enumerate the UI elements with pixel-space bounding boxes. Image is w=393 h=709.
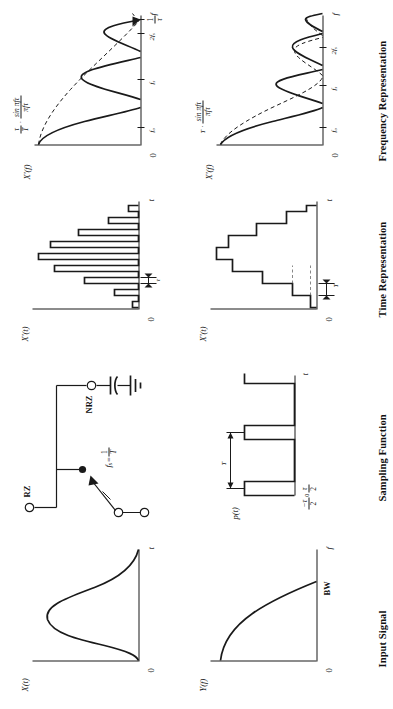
rz-pulse-width-label: τ (154, 278, 161, 281)
sampling-rate-num: 1 (100, 447, 108, 455)
nrz-tick-2fs: 2fs (330, 47, 338, 54)
input-time-x-axis-label: t (146, 547, 155, 549)
pulse-left-edge-num: −τ (300, 497, 308, 509)
nrz-envelope-sinc-fraction: sin πfτ πfτ (194, 100, 211, 123)
rz-envelope-dot: · (17, 120, 24, 122)
nrz-envelope-label: T · sin πfτ πfτ (194, 100, 211, 133)
column-title-sampling-function: Sampling Function (376, 414, 387, 501)
sampling-pulse-train-plot: p(t) t T −τ 2 0 τ 2 (208, 361, 348, 521)
pulse-train-waveform (226, 373, 296, 495)
sampling-rate-label: fs = 1 T (100, 447, 117, 467)
nrz-envelope-prefix: T (199, 129, 206, 133)
rz-time-plot: X'(t) 0 t τ (18, 191, 168, 341)
nrz-time-plot: X'(t) 0 t T (196, 191, 346, 341)
pulse-edge-labels: −τ 2 0 τ 2 (300, 485, 317, 510)
rz-freq-x-label: f (148, 13, 157, 15)
rz-envelope-den: πfτ (20, 95, 29, 118)
sampling-rate-fraction: 1 T (100, 447, 117, 455)
input-time-curve (32, 547, 140, 661)
pulse-train-y-label: p(t) (230, 507, 239, 519)
input-spectrum-y-axis-label: Y(f) (198, 678, 207, 691)
figure-canvas: X(t) 0 t Y(f) 0 f BW Input Signal (0, 0, 393, 709)
column-title-time-representation: Time Representation (376, 221, 387, 317)
input-spectrum-curve (210, 547, 318, 661)
input-terminal-circle (140, 508, 148, 516)
nrz-time-origin-label: 0 (324, 317, 333, 321)
rz-tick-fs: fs (148, 80, 156, 84)
pulse-train-x-label: t (300, 373, 309, 375)
rz-time-origin-label: 0 (146, 317, 155, 321)
input-time-y-axis-label: X(t) (20, 678, 29, 691)
pulse-left-edge-den: 2 (308, 497, 317, 509)
column-title-frequency-representation: Frequency Representation (376, 40, 387, 161)
pulse-right-edge-fraction: τ 2 (300, 485, 317, 493)
rz-envelope-num: sin πfτ (12, 95, 20, 118)
input-spectrum-x-axis-label: f (324, 547, 333, 549)
nrz-freq-y-label: X'(f) (204, 164, 213, 179)
switch-schematic (18, 361, 188, 521)
rz-tick-f0: fo (148, 128, 156, 132)
rz-envelope-prefix-fraction: τ T (12, 125, 29, 133)
rz-tick-null-fraction: 1 τ (146, 15, 163, 23)
nrz-envelope-dot: · (199, 125, 206, 127)
nrz-output-terminal (87, 381, 95, 389)
rz-null-num: 1 (146, 15, 154, 23)
sampling-rate-den: T (108, 447, 117, 455)
rz-frequency-plot: X'(f) 0 f fo fs 2fs 1 τ (8, 7, 176, 179)
rz-time-y-label: X'(t) (20, 326, 29, 341)
rz-time-pulses (32, 199, 140, 309)
nrz-tick-f0: fo (330, 128, 338, 132)
rz-time-x-label: t (146, 199, 155, 201)
input-time-origin-label: 0 (146, 668, 155, 672)
nrz-time-staircase (210, 199, 318, 309)
pulse-right-edge-num: τ (300, 485, 308, 493)
rz-envelope-prefix-num: τ (12, 125, 20, 133)
input-spectrum-bandwidth-label: BW (322, 581, 331, 595)
nrz-time-x-label: t (324, 199, 333, 201)
rz-terminal-label: RZ (22, 485, 31, 497)
pulse-train-origin-label: 0 (303, 493, 309, 496)
rz-envelope-label: τ T · sin πfτ πfτ (12, 95, 29, 133)
nrz-tick-fs: fs (330, 86, 338, 90)
input-spectrum-origin-label: 0 (324, 668, 333, 672)
pulse-train-period-label: T (220, 461, 227, 465)
nrz-time-y-label: X'(t) (198, 326, 207, 341)
nrz-freq-spectra (210, 13, 328, 145)
nrz-envelope-den: πfτ (202, 100, 211, 123)
nrz-freq-origin-label: 0 (330, 153, 339, 157)
rz-null-den: τ (154, 15, 163, 23)
column-title-input-signal: Input Signal (376, 610, 387, 667)
rz-freq-y-label: X'(f) (22, 164, 31, 179)
nrz-freq-x-label: f (330, 13, 339, 15)
rz-output-terminal (25, 503, 33, 511)
pulse-left-edge-fraction: −τ 2 (300, 497, 317, 509)
rz-freq-origin-label: 0 (148, 153, 157, 157)
input-signal-spectrum-plot: Y(f) 0 f BW (196, 541, 346, 691)
rz-envelope-sinc-fraction: sin πfτ πfτ (12, 95, 29, 118)
pulse-right-edge-den: 2 (308, 485, 317, 493)
nrz-envelope-num: sin πfτ (194, 100, 202, 123)
rz-freq-spectra (28, 13, 146, 145)
sampling-rate-sub: s (107, 462, 113, 464)
nrz-period-label: T (332, 283, 339, 287)
nrz-terminal-label: NRZ (84, 395, 93, 413)
sampling-switch-diagram: RZ NRZ fs = 1 T (18, 361, 188, 521)
input-signal-time-plot: X(t) 0 t (18, 541, 168, 691)
rz-envelope-prefix-den: T (20, 125, 29, 133)
rz-tick-2fs: 2fs (148, 33, 156, 40)
sampling-rate-equals: = (104, 457, 113, 462)
nrz-frequency-plot: X'(f) 0 f fo fs 2fs T · sin πf (190, 7, 358, 179)
